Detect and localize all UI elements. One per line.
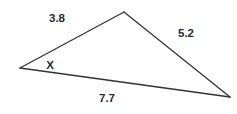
side-length-label-left-right: 7.7 bbox=[99, 92, 115, 104]
triangle-canvas: 3.8 5.2 7.7 X bbox=[0, 0, 237, 114]
side-length-label-left-top: 3.8 bbox=[49, 12, 66, 24]
side-length-label-top-right: 5.2 bbox=[178, 27, 194, 39]
side-left-top bbox=[20, 12, 124, 68]
angle-label-x: X bbox=[46, 59, 54, 71]
triangle-diagram: 3.8 5.2 7.7 X bbox=[0, 0, 237, 114]
